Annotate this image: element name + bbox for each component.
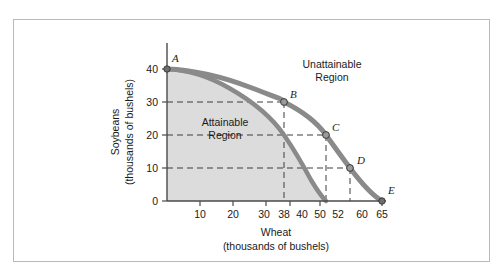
- y-axis-caption-line2: (thousands of bushels): [123, 79, 135, 185]
- x-axis-caption-line1: Wheat: [261, 226, 291, 238]
- unattainable-region-label-line2: Region: [315, 71, 348, 83]
- x-tick-label-10: 10: [194, 208, 206, 220]
- figure-frame: 40 30 20 10 0 10 20 30 38 40 50 52 60 65…: [13, 19, 490, 262]
- point-label-e: E: [387, 184, 395, 196]
- point-label-b: B: [290, 88, 297, 100]
- x-tick-label-60: 60: [356, 208, 368, 220]
- data-point-e: [379, 198, 385, 204]
- x-axis-caption-line2: (thousands of bushels): [223, 240, 329, 252]
- unattainable-region-label-line1: Unattainable: [303, 58, 362, 70]
- point-label-c: C: [332, 121, 340, 133]
- attainable-region-label-line1: Attainable: [202, 116, 249, 128]
- y-tick-label-20: 20: [146, 129, 158, 141]
- x-tick-label-65: 65: [376, 208, 388, 220]
- y-tick-label-0: 0: [152, 195, 158, 207]
- x-tick-label-38: 38: [278, 208, 290, 220]
- y-tick-label-30: 30: [146, 96, 158, 108]
- x-tick-label-50: 50: [314, 208, 326, 220]
- data-point-b: [281, 99, 288, 106]
- x-tick-label-40: 40: [296, 208, 308, 220]
- y-tick-label-10: 10: [146, 162, 158, 174]
- attainable-region-label-line2: Region: [208, 129, 241, 141]
- data-point-c: [323, 132, 330, 139]
- y-tick-marks: [162, 69, 167, 201]
- x-tick-label-30: 30: [258, 208, 270, 220]
- y-tick-label-40: 40: [146, 63, 158, 75]
- data-point-a: [164, 66, 170, 72]
- ppf-chart: 40 30 20 10 0 10 20 30 38 40 50 52 60 65…: [14, 20, 489, 261]
- x-tick-label-20: 20: [227, 208, 239, 220]
- y-axis-caption-line1: Soybeans: [109, 109, 121, 156]
- point-label-a: A: [171, 52, 179, 64]
- point-label-d: D: [356, 154, 365, 166]
- data-point-d: [347, 165, 354, 172]
- x-tick-marks: [200, 201, 382, 206]
- x-tick-label-52: 52: [332, 208, 344, 220]
